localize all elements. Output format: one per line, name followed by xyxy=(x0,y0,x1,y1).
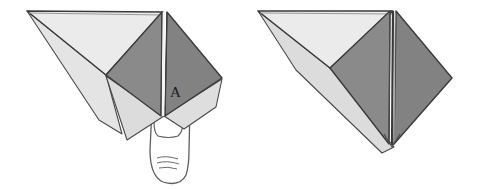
origami-diagram-svg: A xyxy=(0,0,479,189)
center-fold-line xyxy=(163,12,164,116)
point-label-a: A xyxy=(170,84,181,100)
origami-figure-container: A xyxy=(0,0,479,189)
right-panel xyxy=(258,11,452,153)
left-panel: A xyxy=(27,11,222,183)
dark-diamond-right-face xyxy=(394,11,452,144)
center-fold-line xyxy=(392,11,393,145)
